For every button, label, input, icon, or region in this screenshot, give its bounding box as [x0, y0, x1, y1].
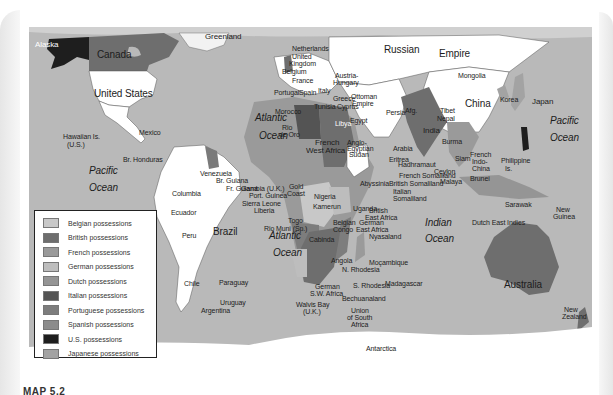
label-german-east-africa-2: East Africa	[356, 226, 388, 233]
label-mongolia: Mongolia	[458, 72, 486, 79]
label-alaska: Alaska	[35, 41, 58, 49]
label-fr-somaliland: French Somaliland	[399, 172, 456, 179]
label-kingdom: Kingdom	[289, 60, 316, 67]
label-walvis-bay-2: (U.K.)	[303, 308, 321, 315]
label-hawaii-us: (U.S.)	[67, 141, 85, 148]
label-union-sa-2: of South	[347, 314, 372, 321]
swatch-japanese	[43, 349, 59, 359]
label-canada: Canada	[97, 50, 131, 60]
label-nepal: Nepal	[437, 115, 455, 122]
label-ottoman: Ottoman	[351, 93, 377, 100]
label-rio-de-oro: Rio	[282, 124, 292, 131]
legend-label: Belgian possessions	[68, 220, 132, 227]
label-fr-indochina-3: China	[472, 165, 490, 172]
label-br-honduras: Br. Honduras	[123, 156, 163, 163]
label-australia: Australia	[504, 280, 542, 290]
label-abyssinia: Abyssinia	[360, 180, 389, 187]
label-french-west-africa-2: West Africa	[306, 147, 345, 155]
label-cabinda: Cabinda	[309, 236, 334, 243]
label-japan: Japan	[532, 98, 553, 106]
label-arabia: Arabia	[393, 145, 413, 152]
label-new-guinea-2: Guinea	[553, 213, 575, 220]
label-egypt: Egypt	[350, 117, 367, 124]
label-br-somaliland: British Somaliland	[389, 180, 443, 187]
label-madagascar: Madagascar	[385, 280, 423, 287]
swatch-french	[43, 247, 59, 257]
legend-item-french: French possessions	[43, 245, 156, 260]
label-german-sw-africa-1: German	[315, 283, 340, 290]
label-it-somaliland-2: Somaliland	[393, 195, 427, 202]
map-legend: Belgian possessions British possessions …	[34, 210, 157, 358]
swatch-british	[43, 233, 59, 243]
label-mexico: Mexico	[139, 129, 161, 136]
legend-label: Spanish possessions	[68, 321, 134, 328]
label-united: United	[292, 53, 312, 60]
legend-label: German possessions	[68, 263, 134, 270]
legend-label: Dutch possessions	[68, 278, 127, 285]
label-greenland: Greenland	[205, 33, 241, 41]
label-empire: Empire	[439, 49, 470, 59]
legend-item-portuguese: Portuguese possessions	[43, 303, 156, 318]
label-sarawak: Sarawak	[505, 201, 532, 208]
label-togo: Togo	[288, 217, 303, 224]
label-nyasaland: Nyasaland	[369, 233, 401, 240]
label-port-guinea: Port. Guinea	[249, 192, 287, 199]
label-ecuador: Ecuador	[171, 209, 196, 216]
label-dutch-east-indies: Dutch East Indies	[472, 219, 525, 226]
page-edge-left	[0, 10, 20, 395]
label-portugal: Portugal	[274, 89, 299, 96]
label-china: China	[465, 99, 491, 109]
label-atlantic-south: Atlantic	[269, 231, 301, 241]
label-ocean-atlantic-south: Ocean	[273, 248, 302, 258]
label-uruguay: Uruguay	[220, 299, 246, 306]
label-libya: Libya	[335, 120, 351, 127]
label-malaya: Malaya	[440, 178, 462, 185]
label-burma: Burma	[442, 138, 462, 145]
label-anglo-egyptian-3: Sudan	[349, 151, 369, 158]
label-netherlands: Netherlands	[292, 45, 329, 52]
label-india: India	[423, 127, 440, 135]
label-br-guiana: Br. Guiana	[216, 177, 248, 184]
legend-label: Japanese possessions	[68, 350, 139, 357]
label-fr-indochina-2: Indo-	[472, 158, 487, 165]
swatch-dutch	[43, 276, 59, 286]
label-sierra-leone: Sierra Leone	[242, 200, 281, 207]
label-new-zealand-2: Zealand	[562, 313, 587, 320]
page-edge-right	[599, 12, 613, 395]
label-france: France	[292, 77, 313, 84]
swatch-us	[43, 334, 59, 344]
label-united-states: United States	[94, 89, 153, 99]
label-indian: Indian	[425, 218, 452, 228]
label-liberia: Liberia	[254, 207, 274, 214]
legend-item-japanese: Japanese possessions	[43, 347, 156, 362]
label-gold-coast-1: Gold	[289, 183, 303, 190]
label-it-somaliland-1: Italian	[393, 188, 411, 195]
label-ocean-indian: Ocean	[425, 234, 454, 244]
label-german-sw-africa-2: S.W. Africa	[310, 290, 343, 297]
label-br-east-africa-1: British	[369, 207, 388, 214]
legend-label: U.S. possessions	[68, 336, 122, 343]
label-philippine: Philippine	[501, 157, 530, 164]
label-ocean-pacific-east: Ocean	[550, 133, 579, 143]
label-russian: Russian	[384, 45, 419, 55]
label-fr-indochina-1: French	[470, 151, 491, 158]
label-argentina: Argentina	[201, 307, 230, 314]
label-columbia: Columbia	[172, 190, 201, 197]
map-caption: MAP 5.2	[23, 386, 65, 395]
label-gold-coast-2: Coast	[287, 190, 305, 197]
label-paraguay: Paraguay	[219, 279, 248, 286]
swatch-belgian	[43, 218, 59, 228]
label-chile: Chile	[184, 280, 199, 287]
label-fr-guiana: Fr. Guiana	[226, 185, 258, 192]
legend-label: Portuguese possessions	[68, 307, 144, 314]
label-pacific-west: Pacific	[89, 166, 118, 176]
label-siam: Siam	[455, 155, 471, 162]
label-italy: Italy	[318, 87, 330, 94]
label-belgian-congo-1: Belgian	[333, 219, 356, 226]
label-union-sa-1: Union	[351, 307, 369, 314]
legend-item-british: British possessions	[43, 231, 156, 246]
label-new-zealand-1: New	[564, 306, 578, 313]
swatch-italian	[43, 291, 59, 301]
label-cyprus: Cyprus	[337, 103, 359, 110]
legend-item-dutch: Dutch possessions	[43, 274, 156, 289]
